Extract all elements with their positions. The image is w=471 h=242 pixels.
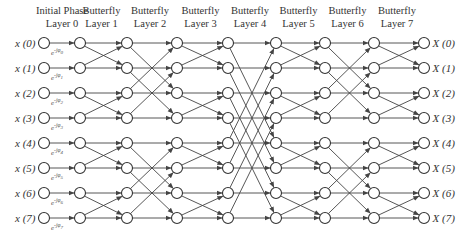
edges xyxy=(50,43,420,218)
layer-header-title: Butterfly xyxy=(329,5,368,16)
node-circle xyxy=(75,38,86,49)
node-circle xyxy=(172,138,183,149)
layer-header-title: Butterfly xyxy=(182,5,221,16)
butterfly-diagram: Initial PhaseLayer 0ButterflyLayer 1Butt… xyxy=(0,0,471,242)
node-circle xyxy=(39,163,50,174)
node-circle xyxy=(39,138,50,149)
node-circle xyxy=(172,188,183,199)
node-circle xyxy=(271,38,282,49)
node-circle xyxy=(39,38,50,49)
layer-header-title: Butterfly xyxy=(378,5,417,16)
layer-header-number: Layer 5 xyxy=(282,18,314,29)
node-circle xyxy=(223,163,234,174)
node-circle xyxy=(122,213,133,224)
node-circle xyxy=(271,213,282,224)
node-circle xyxy=(320,213,331,224)
node-circle xyxy=(271,63,282,74)
node-circle xyxy=(271,138,282,149)
node-circle xyxy=(75,138,86,149)
phase-label: e-jφ4 xyxy=(51,147,64,157)
node-circle xyxy=(223,88,234,99)
node-circle xyxy=(271,163,282,174)
node-circle xyxy=(39,213,50,224)
node-circle xyxy=(419,113,430,124)
input-label: x (2) xyxy=(14,87,36,100)
node-circle xyxy=(369,63,380,74)
node-circle xyxy=(223,188,234,199)
node-circle xyxy=(172,63,183,74)
node-circle xyxy=(419,163,430,174)
node-circle xyxy=(122,88,133,99)
layer-header-number: Layer 4 xyxy=(234,18,267,29)
output-label: X (3) xyxy=(432,112,456,125)
layer-header-title: Butterfly xyxy=(231,5,270,16)
node-circle xyxy=(271,188,282,199)
node-circle xyxy=(419,88,430,99)
input-label: x (1) xyxy=(14,62,36,75)
node-circle xyxy=(320,113,331,124)
node-circle xyxy=(369,188,380,199)
node-circle xyxy=(172,213,183,224)
node-circle xyxy=(122,113,133,124)
layer-header-number: Layer 2 xyxy=(134,18,166,29)
node-circle xyxy=(419,188,430,199)
input-label: x (4) xyxy=(14,137,36,150)
layer-header-number: Layer 7 xyxy=(381,18,413,29)
node-circle xyxy=(223,113,234,124)
phase-label: e-jφ3 xyxy=(51,122,64,132)
layer-header-title: Butterfly xyxy=(83,5,122,16)
node-circle xyxy=(75,188,86,199)
node-circle xyxy=(369,213,380,224)
layer-header-title: Initial Phase xyxy=(36,5,89,16)
node-circle xyxy=(223,63,234,74)
node-circle xyxy=(369,163,380,174)
node-circle xyxy=(419,213,430,224)
node-circle xyxy=(369,138,380,149)
node-circle xyxy=(75,63,86,74)
node-circle xyxy=(39,88,50,99)
node-circle xyxy=(172,88,183,99)
phase-labels: e-jφ0e-jφ1e-jφ2e-jφ3e-jφ4e-jφ5e-jφ6e-jφ7 xyxy=(51,47,64,232)
node-circle xyxy=(122,138,133,149)
node-circle xyxy=(172,113,183,124)
phase-label: e-jφ6 xyxy=(51,197,64,207)
node-circle xyxy=(75,113,86,124)
phase-label: e-jφ2 xyxy=(51,97,64,107)
layer-header-number: Layer 1 xyxy=(85,18,117,29)
output-label: X (7) xyxy=(432,212,456,225)
node-circle xyxy=(39,188,50,199)
node-circle xyxy=(320,88,331,99)
node-circle xyxy=(369,113,380,124)
output-label: X (4) xyxy=(432,137,456,150)
layer-header-number: Layer 0 xyxy=(46,18,78,29)
node-circle xyxy=(419,138,430,149)
node-circle xyxy=(271,113,282,124)
node-circle xyxy=(122,188,133,199)
phase-label: e-jφ1 xyxy=(51,72,63,82)
node-circle xyxy=(223,213,234,224)
node-circle xyxy=(271,88,282,99)
phase-label: e-jφ5 xyxy=(51,172,64,182)
node-circle xyxy=(122,63,133,74)
node-circle xyxy=(75,213,86,224)
input-label: x (0) xyxy=(14,37,36,50)
node-circle xyxy=(369,38,380,49)
node-circle xyxy=(172,163,183,174)
node-circle xyxy=(223,38,234,49)
node-circle xyxy=(39,63,50,74)
layer-headers: Initial PhaseLayer 0ButterflyLayer 1Butt… xyxy=(36,5,417,29)
node-circle xyxy=(75,88,86,99)
phase-label: e-jφ7 xyxy=(51,222,64,232)
output-label: X (2) xyxy=(432,87,456,100)
node-circle xyxy=(419,38,430,49)
input-label: x (7) xyxy=(14,212,36,225)
layer-header-number: Layer 3 xyxy=(184,18,216,29)
input-label: x (6) xyxy=(14,187,36,200)
layer-header-title: Butterfly xyxy=(131,5,170,16)
layer-header-title: Butterfly xyxy=(280,5,319,16)
node-circle xyxy=(122,38,133,49)
node-circle xyxy=(75,163,86,174)
output-label: X (1) xyxy=(432,62,456,75)
node-circle xyxy=(39,113,50,124)
node-circle xyxy=(320,38,331,49)
